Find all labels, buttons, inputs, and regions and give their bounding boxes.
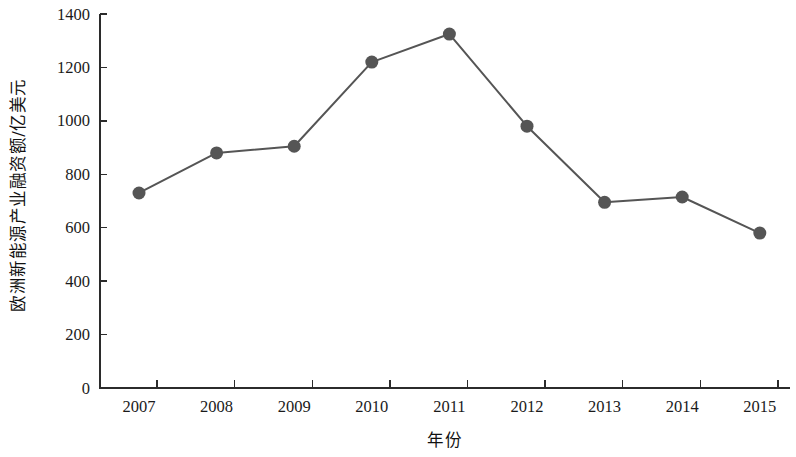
- x-tick-label: 2009: [278, 397, 311, 416]
- y-tick-label: 600: [65, 218, 90, 237]
- data-point-marker: [521, 120, 534, 133]
- series-line: [139, 34, 760, 233]
- chart-container: 欧洲新能源产业融资额/亿美元 年份 0200400600800100012001…: [0, 0, 796, 457]
- y-tick-label: 800: [65, 165, 90, 184]
- x-tick-label: 2007: [123, 397, 156, 416]
- x-tick-label: 2015: [743, 397, 776, 416]
- line-chart-plot: 0200400600800100012001400 20072008200920…: [0, 0, 796, 457]
- x-axis-ticks: 200720082009201020112012201320142015: [123, 380, 778, 416]
- data-point-marker: [210, 146, 223, 159]
- y-tick-label: 400: [65, 272, 90, 291]
- x-tick-label: 2008: [200, 397, 233, 416]
- x-tick-label: 2010: [355, 397, 388, 416]
- y-tick-label: 200: [65, 325, 90, 344]
- data-point-marker: [676, 190, 689, 203]
- x-tick-label: 2011: [433, 397, 465, 416]
- data-series: [133, 28, 767, 240]
- y-tick-label: 1000: [57, 111, 90, 130]
- data-point-marker: [288, 140, 301, 153]
- y-tick-label: 1400: [57, 5, 90, 24]
- x-tick-label: 2014: [666, 397, 699, 416]
- data-point-marker: [443, 28, 456, 41]
- data-point-marker: [365, 56, 378, 69]
- data-point-marker: [753, 227, 766, 240]
- x-tick-label: 2013: [588, 397, 621, 416]
- x-tick-label: 2012: [511, 397, 544, 416]
- data-point-marker: [598, 196, 611, 209]
- y-tick-label: 1200: [57, 58, 90, 77]
- data-point-marker: [133, 186, 146, 199]
- y-tick-label: 0: [82, 379, 90, 398]
